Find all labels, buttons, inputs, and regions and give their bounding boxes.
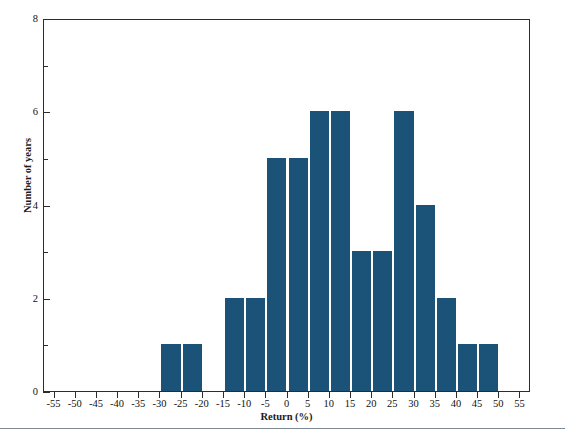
y-axis-tick-label: 8	[10, 14, 38, 25]
histogram-bar	[183, 344, 202, 391]
histogram-bar	[225, 298, 244, 391]
histogram-bar	[246, 298, 265, 391]
x-axis-tick-label: 55	[499, 398, 539, 410]
histogram-bar	[289, 158, 308, 391]
histogram-bar	[437, 298, 456, 391]
histogram-bar	[310, 111, 329, 391]
x-axis-title: Return (%)	[43, 411, 530, 422]
y-axis-minor-tick	[43, 159, 48, 160]
y-axis-tick-label: 0	[10, 387, 38, 398]
y-axis-tick	[43, 19, 50, 20]
histogram-bar	[267, 158, 286, 391]
histogram-bar	[394, 111, 413, 391]
y-axis-tick	[43, 299, 50, 300]
bars-layer	[44, 20, 529, 391]
histogram-bar	[352, 251, 371, 391]
histogram-bar	[479, 344, 498, 391]
y-axis-minor-tick	[43, 252, 48, 253]
plot-area	[43, 19, 530, 392]
histogram-bar	[416, 205, 435, 392]
y-axis-minor-tick	[43, 66, 48, 67]
y-axis-tick	[43, 112, 50, 113]
histogram-bar	[161, 344, 180, 391]
y-axis-minor-tick	[43, 345, 48, 346]
histogram-bar	[458, 344, 477, 391]
histogram-bar	[331, 111, 350, 391]
y-axis-title: Number of years	[22, 116, 33, 236]
histogram-bar	[373, 251, 392, 391]
y-axis-tick	[43, 206, 50, 207]
histogram-figure: 02468 Number of years -55-50-45-40-35-30…	[0, 0, 565, 440]
footer-rule	[0, 428, 565, 429]
y-axis-tick-label: 2	[10, 294, 38, 305]
y-axis-tick	[43, 392, 50, 393]
